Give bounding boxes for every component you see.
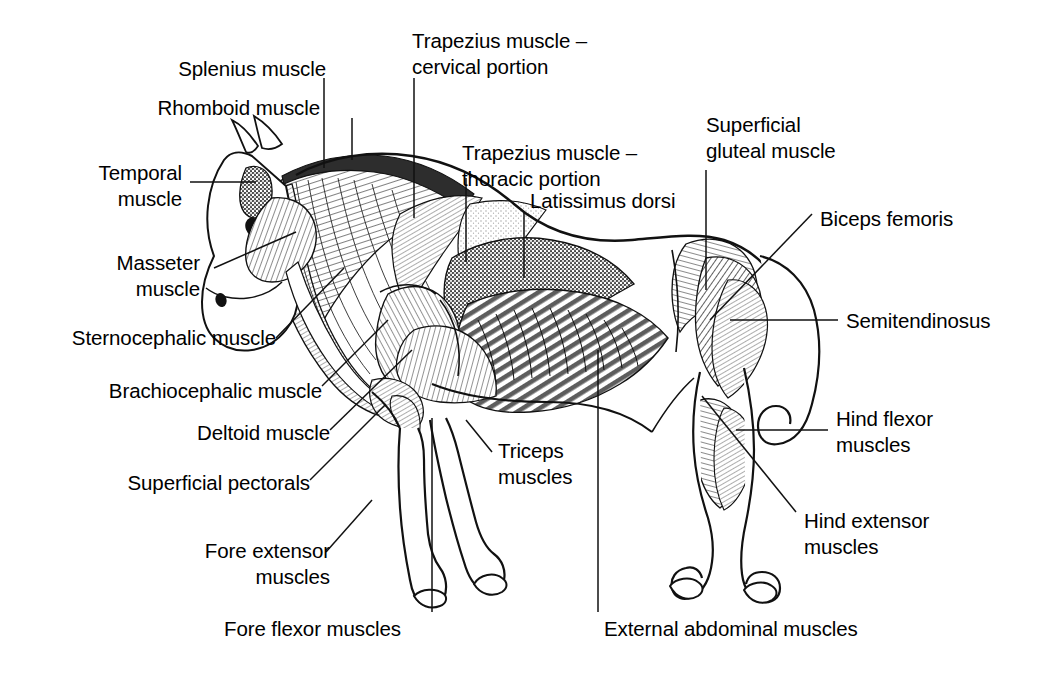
label-external-abdominal-muscles: External abdominal muscles	[604, 616, 858, 642]
label-hind-extensor-muscles: Hind extensor muscles	[804, 508, 929, 560]
label-trapezius-cervical: Trapezius muscle – cervical portion	[412, 28, 587, 80]
label-hind-flexor-muscles: Hind flexor muscles	[836, 406, 933, 458]
label-brachiocephalic-muscle: Brachiocephalic muscle	[109, 378, 322, 404]
label-triceps-muscles: Triceps muscles	[498, 438, 572, 490]
label-semitendinosus: Semitendinosus	[846, 308, 990, 334]
hoof-fore-far	[474, 575, 507, 595]
label-splenius-muscle: Splenius muscle	[178, 56, 326, 82]
label-temporal-muscle: Temporal muscle	[98, 160, 182, 212]
label-superficial-pectorals: Superficial pectorals	[128, 470, 311, 496]
label-deltoid-muscle: Deltoid muscle	[197, 420, 330, 446]
leader-triceps	[466, 420, 492, 452]
label-latissimus-dorsi: Latissimus dorsi	[530, 188, 675, 214]
hoof-fore-near	[414, 590, 446, 608]
figure-canvas: Splenius muscle Rhomboid muscle Temporal…	[0, 0, 1038, 677]
label-rhomboid-muscle: Rhomboid muscle	[157, 95, 320, 121]
label-fore-flexor-muscles: Fore flexor muscles	[224, 616, 401, 642]
label-superficial-gluteal: Superficial gluteal muscle	[706, 112, 836, 164]
label-masseter-muscle: Masseter muscle	[116, 250, 200, 302]
foreleg-far	[430, 418, 505, 592]
label-trapezius-thoracic: Trapezius muscle – thoracic portion	[462, 140, 637, 192]
leader-fore-extensor	[326, 500, 372, 552]
label-sternocephalic-muscle: Sternocephalic muscle	[72, 325, 276, 351]
label-fore-extensor-muscles: Fore extensor muscles	[205, 538, 330, 590]
hoof-hind-far	[744, 583, 777, 603]
label-biceps-femoris: Biceps femoris	[820, 206, 953, 232]
ear-left	[232, 120, 258, 153]
